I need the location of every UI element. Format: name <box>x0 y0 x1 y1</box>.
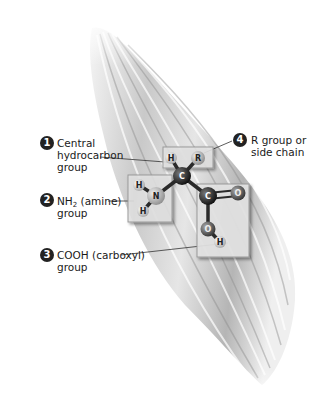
atom-nitrogen: N <box>147 187 165 205</box>
label-1-line1: Central <box>57 137 123 149</box>
atom-amine-hydrogen-1: H <box>133 179 145 191</box>
label-3-badge: 3 <box>40 248 54 262</box>
label-1-line3: group <box>57 161 123 173</box>
svg-text:O: O <box>235 189 242 198</box>
atom-amine-hydrogen-2: H <box>137 205 149 217</box>
svg-text:R: R <box>195 154 201 163</box>
svg-text:H: H <box>136 181 143 190</box>
svg-text:O: O <box>205 225 212 234</box>
atom-hydroxyl-oxygen: O <box>201 222 216 237</box>
label-1-badge: 1 <box>40 136 54 150</box>
atom-r-group: R <box>191 151 205 165</box>
atom-carboxyl-carbon: C <box>199 187 217 205</box>
label-3-text: COOH (carboxyl) group <box>57 249 145 273</box>
label-3-line2: group <box>57 261 145 273</box>
atom-hydroxyl-hydrogen: H <box>214 236 226 248</box>
label-4-text: R group or side chain <box>251 134 306 158</box>
amino-acid-diagram: H R N H H C C <box>0 0 322 400</box>
svg-text:N: N <box>153 192 160 201</box>
svg-text:C: C <box>205 192 211 201</box>
atom-central-carbon: C <box>173 167 191 185</box>
svg-text:H: H <box>217 238 224 247</box>
svg-text:H: H <box>168 154 175 163</box>
label-2-line1: NH2 (amine) <box>57 195 121 207</box>
label-2-line2: group <box>57 207 121 219</box>
label-3-line1: COOH (carboxyl) <box>57 249 145 261</box>
label-1-line2: hydrocarbon <box>57 149 123 161</box>
label-4-line2: side chain <box>251 146 306 158</box>
label-1-text: Central hydrocarbon group <box>57 137 123 173</box>
atom-carbonyl-oxygen: O <box>231 186 246 201</box>
atom-central-hydrogen: H <box>165 152 177 164</box>
label-4-line1: R group or <box>251 134 306 146</box>
svg-text:H: H <box>140 207 147 216</box>
label-4-badge: 4 <box>233 133 247 147</box>
label-2-badge: 2 <box>40 193 54 207</box>
svg-text:C: C <box>179 172 185 181</box>
label-2-text: NH2 (amine) group <box>57 195 121 219</box>
